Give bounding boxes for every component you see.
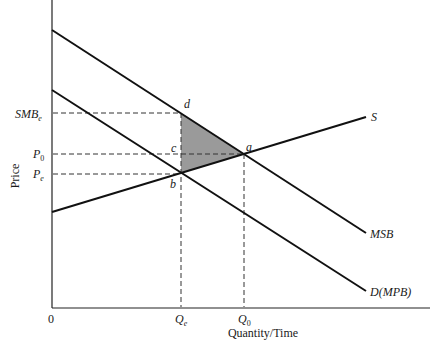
point-b-label: b: [170, 177, 176, 191]
qe-label: Qe: [175, 312, 188, 328]
p0-label: P0: [32, 147, 44, 163]
point-c-label: c: [171, 141, 177, 155]
y-axis-title: Price: [8, 164, 22, 189]
origin-label: 0: [48, 312, 54, 326]
msb-label: MSB: [369, 227, 394, 241]
x-axis-title: Quantity/Time: [228, 326, 298, 340]
supply-label: S: [371, 110, 377, 124]
pe-label: Pe: [32, 167, 44, 183]
point-d-label: d: [184, 97, 191, 111]
point-a-label: a: [246, 140, 252, 154]
demand-label: D(MPB): [369, 285, 411, 299]
externality-diagram: S MSB D(MPB) d a c b SMBe P0 Pe 0 Qe Q0 …: [0, 0, 430, 347]
smb-e-label: SMBe: [15, 107, 42, 123]
demand-curve: [52, 90, 366, 291]
